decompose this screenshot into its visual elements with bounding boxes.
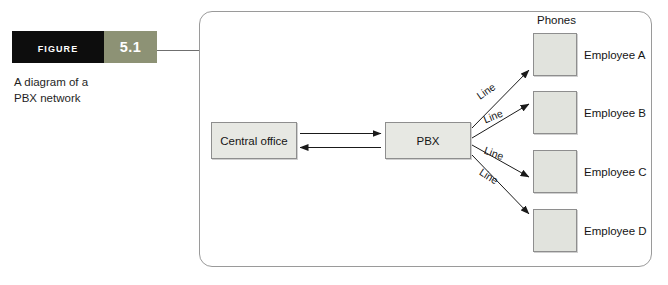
figure-tag-word: Figure	[12, 31, 104, 63]
node-pbx-label: PBX	[416, 135, 439, 147]
figure-caption-line-1: A diagram of a	[14, 74, 164, 90]
employee-label-c: Employee C	[584, 166, 647, 178]
phone-box-employee-b[interactable]	[533, 91, 577, 134]
employee-label-d: Employee D	[584, 225, 647, 237]
phones-column-header: Phones	[537, 14, 576, 26]
figure-caption-line-2: PBX network	[14, 90, 164, 106]
employee-label-a: Employee A	[584, 49, 645, 61]
phone-box-employee-d[interactable]	[533, 209, 577, 252]
phone-box-employee-c[interactable]	[533, 150, 577, 193]
phone-box-employee-a[interactable]	[533, 33, 577, 76]
node-central-office-label: Central office	[220, 135, 288, 147]
figure-caption: A diagram of a PBX network	[14, 74, 164, 106]
figure-tag-connector-line	[157, 50, 200, 51]
figure-tag: Figure 5.1	[12, 31, 157, 63]
node-central-office[interactable]: Central office	[211, 122, 297, 159]
figure-tag-number: 5.1	[104, 31, 157, 63]
node-pbx[interactable]: PBX	[385, 122, 471, 159]
employee-label-b: Employee B	[584, 107, 646, 119]
